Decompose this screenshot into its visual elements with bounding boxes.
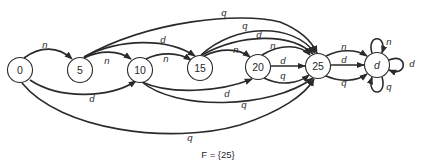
label-0-5: n bbox=[42, 39, 47, 50]
state-15: 15 bbox=[188, 56, 213, 81]
edge-labels: n d q n d q n d q n d q n d q n d q n d … bbox=[42, 7, 415, 143]
state-5: 5 bbox=[68, 58, 93, 83]
label-25-d-d: d bbox=[341, 54, 347, 65]
edge-0-25-q bbox=[22, 79, 314, 134]
label-15-25-d: d bbox=[256, 29, 262, 40]
state-20: 20 bbox=[246, 55, 271, 80]
label-0-25: q bbox=[187, 132, 193, 143]
label-loop-d: d bbox=[409, 58, 415, 69]
state-5-label: 5 bbox=[77, 64, 83, 76]
label-15-20: n bbox=[233, 44, 238, 55]
edge-0-5-n bbox=[24, 49, 72, 59]
state-10: 10 bbox=[128, 58, 153, 83]
label-0-10: d bbox=[89, 93, 95, 104]
label-15-25-q: q bbox=[242, 20, 248, 31]
label-10-25: q bbox=[241, 99, 247, 110]
label-25-d-q: q bbox=[341, 77, 347, 88]
loop-d-d bbox=[389, 58, 403, 71]
loop-d-q bbox=[371, 77, 383, 92]
label-10-20: d bbox=[224, 88, 230, 99]
label-5-15: d bbox=[160, 34, 166, 45]
label-20-25-d: d bbox=[280, 55, 286, 66]
label-5-10: n bbox=[104, 55, 109, 66]
edge-20-25-n bbox=[262, 47, 310, 55]
label-5-25: q bbox=[221, 7, 227, 18]
state-25-label: 25 bbox=[312, 60, 324, 72]
state-0-label: 0 bbox=[17, 64, 23, 76]
state-0: 0 bbox=[8, 58, 33, 83]
label-20-25-n: n bbox=[270, 40, 275, 51]
edge-20-25-q bbox=[264, 75, 309, 83]
label-25-d-n: n bbox=[341, 41, 346, 52]
state-10-label: 10 bbox=[134, 64, 146, 76]
state-15-label: 15 bbox=[194, 62, 206, 74]
label-10-15: n bbox=[163, 53, 168, 64]
state-25: 25 bbox=[306, 54, 331, 79]
edge-10-20-d bbox=[142, 79, 252, 90]
loop-d-n bbox=[371, 39, 383, 53]
state-20-label: 20 bbox=[252, 61, 264, 73]
automaton-diagram: n d q n d q n d q n d q n d q n d q n d … bbox=[0, 0, 425, 166]
label-loop-n: n bbox=[386, 36, 391, 47]
edge-5-25-q bbox=[84, 18, 317, 57]
state-dead: d bbox=[365, 53, 390, 78]
label-20-25-q: q bbox=[280, 70, 286, 81]
accepting-set-caption: F = {25} bbox=[201, 149, 235, 160]
label-loop-q: q bbox=[386, 81, 392, 92]
